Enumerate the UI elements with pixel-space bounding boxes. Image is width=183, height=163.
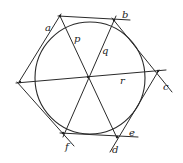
vertex-dot <box>62 132 64 134</box>
center-point <box>87 76 89 78</box>
vertex-dot <box>19 81 21 83</box>
tangent-line-b <box>58 16 130 20</box>
tangent-line-a <box>19 14 61 82</box>
label-d: d <box>112 144 118 155</box>
vertex-dot <box>113 19 115 21</box>
label-e: e <box>129 127 135 138</box>
label-a: a <box>45 22 51 33</box>
label-b: b <box>122 9 128 20</box>
brianchon-diagram: a b c d e f p q r <box>0 0 183 163</box>
label-q: q <box>102 45 108 56</box>
label-f: f <box>64 141 71 152</box>
vertex-dot <box>59 15 61 17</box>
label-c: c <box>163 81 169 92</box>
tangent-line-f <box>17 82 74 146</box>
vertex-dot <box>157 70 159 72</box>
vertex-dot <box>116 136 118 138</box>
label-r: r <box>120 75 126 86</box>
label-p: p <box>74 33 81 44</box>
tangent-line-d <box>110 70 159 152</box>
